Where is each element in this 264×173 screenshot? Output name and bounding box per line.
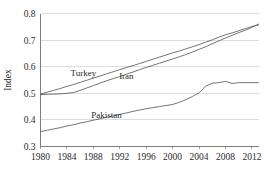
series-line-turkey	[41, 25, 259, 94]
series-line-pakistan	[41, 81, 259, 131]
x-tick-label: 1984	[57, 152, 76, 162]
series-label-turkey: Turkey	[71, 68, 97, 78]
series-inline-labels: TurkeyIranPakistan	[71, 68, 135, 120]
x-tick-label: 1996	[137, 152, 156, 162]
y-axis-tick-labels: 0.30.40.50.60.70.8	[24, 9, 36, 152]
series-label-pakistan: Pakistan	[91, 110, 122, 120]
y-axis-title-group: Index	[3, 69, 13, 91]
x-tick-label: 2000	[163, 152, 182, 162]
series-label-iran: Iran	[119, 71, 134, 81]
y-tick-label: 0.4	[24, 115, 36, 125]
x-axis-tick-labels: 198019841988199219962000200420082012	[31, 152, 262, 162]
line-chart: 0.30.40.50.60.70.8 198019841988199219962…	[0, 0, 264, 173]
x-tick-label: 1988	[84, 152, 103, 162]
y-tick-label: 0.5	[24, 89, 36, 99]
x-tick-label: 2012	[242, 152, 261, 162]
y-tick-label: 0.3	[24, 142, 36, 152]
x-tick-label: 2004	[190, 152, 209, 162]
x-tick-label: 1992	[110, 152, 129, 162]
x-tick-label: 1980	[31, 152, 50, 162]
y-axis-title: Index	[3, 69, 13, 91]
y-tick-label: 0.7	[24, 36, 36, 46]
y-tick-label: 0.6	[24, 62, 36, 72]
y-tick-label: 0.8	[24, 9, 36, 19]
x-tick-label: 2008	[216, 152, 235, 162]
axis-lines-group	[41, 14, 259, 147]
chart-canvas: 0.30.40.50.60.70.8 198019841988199219962…	[0, 0, 264, 173]
